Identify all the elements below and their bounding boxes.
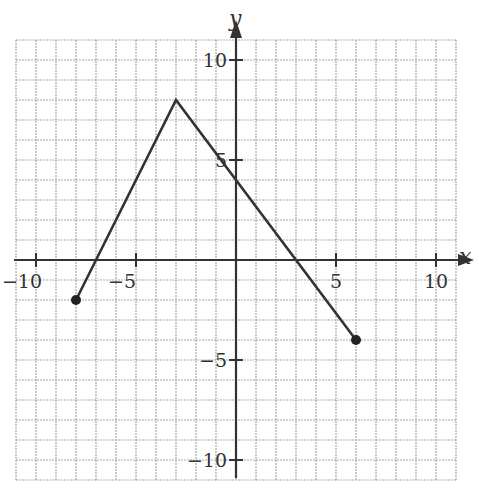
x-tick-label: 5 — [330, 270, 342, 292]
x-axis-label: x — [459, 244, 472, 269]
endpoint-dot — [351, 335, 361, 345]
y-tick-label: −5 — [199, 349, 227, 371]
endpoint-dot — [71, 295, 81, 305]
y-axis-label: y — [228, 6, 242, 31]
x-tick-label: −10 — [2, 270, 42, 292]
y-tick-label: −10 — [187, 449, 227, 471]
x-tick-label: −5 — [108, 270, 136, 292]
x-tick-label: 10 — [424, 270, 448, 292]
axes — [14, 20, 474, 478]
coordinate-plane: −10−5510−10−5510 x y — [0, 0, 479, 492]
y-tick-label: 10 — [203, 49, 227, 71]
